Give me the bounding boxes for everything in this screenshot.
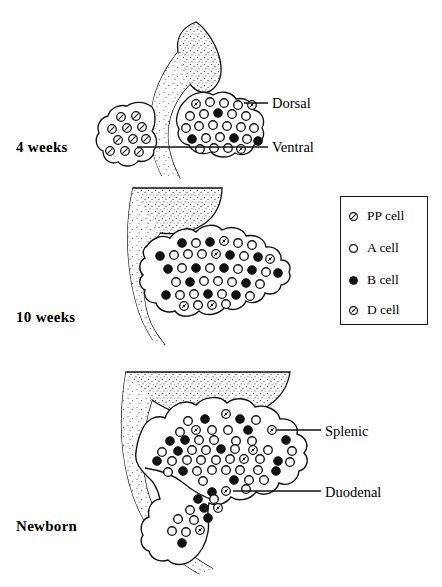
callout-label-duodenal: Duodenal	[325, 484, 381, 501]
ventral-bud-outline	[96, 102, 156, 166]
legend-label-d-cell: D cell	[367, 303, 400, 317]
callout-label-dorsal: Dorsal	[272, 95, 311, 112]
legend-item-a-cell: A cell	[348, 237, 399, 259]
panel-newborn	[122, 372, 321, 574]
legend-item-d-cell: D cell	[348, 299, 400, 321]
panel-ten-weeks	[128, 188, 290, 345]
stage-label-ten-weeks: 10 weeks	[16, 309, 75, 326]
legend-label-pp-cell: PP cell	[367, 209, 404, 223]
b-cell-marker-icon	[348, 275, 359, 286]
panel-four-weeks	[96, 22, 268, 179]
callout-label-splenic: Splenic	[325, 423, 369, 440]
callout-label-ventral: Ventral	[272, 139, 314, 156]
legend-label-a-cell: A cell	[367, 241, 399, 255]
pp-cell-marker-icon	[348, 211, 359, 222]
legend-item-pp-cell: PP cell	[348, 205, 404, 227]
cell-type-legend: PP cell A cell B cell D cell	[340, 196, 428, 325]
legend-item-b-cell: B cell	[348, 269, 399, 291]
stage-label-four-weeks: 4 weeks	[16, 139, 68, 156]
a-cell-marker-icon	[348, 243, 359, 254]
legend-label-b-cell: B cell	[367, 273, 399, 287]
d-cell-marker-icon	[348, 305, 359, 316]
pancreas-outline-nb	[136, 398, 308, 565]
stage-label-newborn: Newborn	[16, 518, 77, 535]
